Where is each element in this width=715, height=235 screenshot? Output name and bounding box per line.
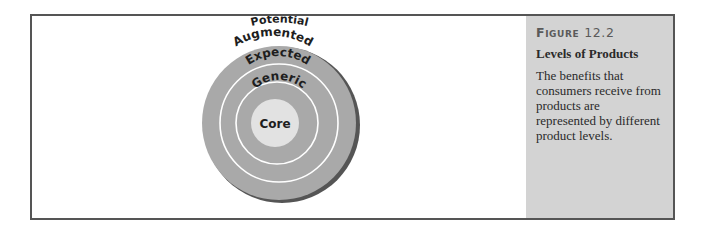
- figure-label-number: 12.2: [584, 25, 614, 40]
- figure-frame: Potential Augmented Expected Generic Cor…: [30, 14, 675, 220]
- caption-panel: Figure 12.2 Levels of Products The benef…: [526, 16, 673, 218]
- figure-label-word: Figure: [536, 25, 579, 40]
- figure-caption: The benefits that consumers receive from…: [536, 68, 663, 143]
- figure-number: Figure 12.2: [536, 25, 663, 40]
- figure-title: Levels of Products: [536, 46, 663, 62]
- label-core: Core: [259, 117, 290, 131]
- product-levels-diagram: Potential Augmented Expected Generic Cor…: [32, 16, 526, 218]
